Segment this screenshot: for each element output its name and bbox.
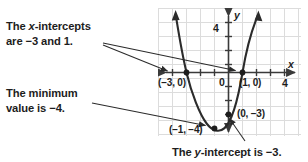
annotation-minimum-line2: value is −4. [6, 102, 65, 114]
annotation-x-intercepts-line2: are −3 and 1. [6, 35, 73, 47]
coordinate-plane [158, 8, 301, 136]
annotation-y-intercept-line1: The y-intercept is −3. [172, 146, 281, 158]
curve-arrow-right [255, 10, 263, 21]
annotation-x-intercepts: The x-intercepts are −3 and 1. [6, 19, 91, 48]
point-x-intercept-left [184, 70, 190, 76]
point-x-intercept-right [240, 70, 246, 76]
graph-svg [158, 8, 301, 136]
label-x-intercept-left: (−3, 0) [158, 77, 186, 88]
annotation-x-intercepts-line1: The x-intercepts [6, 20, 91, 32]
label-y-intercept: (0, −3) [237, 108, 265, 119]
x-axis-tick-label-4: 4 [282, 77, 288, 89]
x-axis-label: x [288, 58, 294, 70]
annotation-y-intercept: The y-intercept is −3. [172, 145, 281, 160]
y-axis-label: y [234, 9, 240, 21]
origin-label: 0 [219, 76, 225, 88]
point-y-intercept [226, 112, 232, 118]
annotation-minimum: The minimum value is −4. [6, 86, 78, 115]
figure-canvas: The x-intercepts are −3 and 1. The minim… [0, 0, 308, 162]
point-vertex [212, 126, 218, 132]
label-vertex: (−1, −4) [169, 124, 202, 135]
label-x-intercept-right: (1, 0) [239, 77, 261, 88]
annotation-minimum-line1: The minimum [6, 87, 78, 99]
y-axis-tick-label-4: 4 [213, 22, 219, 34]
